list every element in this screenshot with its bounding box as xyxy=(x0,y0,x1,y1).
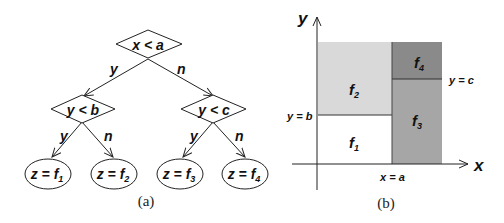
root-condition: x < a xyxy=(131,37,164,53)
leaf-label: z = f1 xyxy=(30,166,64,184)
leaf-f3: z = f3 xyxy=(157,159,203,189)
caption-b: (b) xyxy=(377,195,395,212)
leaf-label: z = f3 xyxy=(162,166,196,184)
y-eq-c-label: y = c xyxy=(448,74,474,86)
leaf-f2: z = f2 xyxy=(91,159,137,189)
root-yes-label: y xyxy=(109,61,119,77)
leaf-label: z = f4 xyxy=(227,166,261,184)
root-no-label: n xyxy=(177,61,186,77)
x-eq-a-label: x = a xyxy=(379,171,405,183)
edge-right-yes xyxy=(183,122,213,157)
leaf-f4: z = f4 xyxy=(222,159,268,189)
left-node: y < b xyxy=(51,95,115,123)
x-axis-label: x xyxy=(473,156,485,175)
partition-panel: y x y = b y = c x = a f2 f1 f3 f4 (b) xyxy=(286,9,485,212)
left-no-label: n xyxy=(104,128,113,144)
right-condition: y < c xyxy=(197,102,230,118)
region-f1 xyxy=(318,115,392,164)
leaf-f1: z = f1 xyxy=(25,159,71,189)
y-eq-b-label: y = b xyxy=(286,110,313,122)
right-no-label: n xyxy=(235,128,244,144)
region-f2 xyxy=(318,42,392,115)
left-condition: y < b xyxy=(66,102,100,118)
left-yes-label: y xyxy=(59,128,69,144)
y-axis-label: y xyxy=(297,9,309,28)
right-yes-label: y xyxy=(189,128,199,144)
root-node: x < a xyxy=(116,30,182,58)
decision-tree-panel: y n y n y n x < a y < b y < c z = f1 z =… xyxy=(25,30,268,210)
figure: y n y n y n x < a y < b y < c z = f1 z =… xyxy=(0,0,504,223)
right-node: y < c xyxy=(181,95,246,123)
caption-a: (a) xyxy=(138,193,155,210)
leaf-label: z = f2 xyxy=(96,166,130,184)
